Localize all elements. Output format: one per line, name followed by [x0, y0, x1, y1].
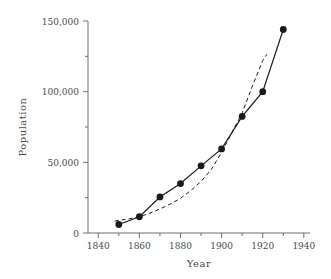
- data-point-marker: [198, 162, 205, 169]
- x-tick-label: 1840: [87, 241, 110, 251]
- x-tick-label: 1900: [210, 241, 233, 251]
- data-point-marker: [115, 221, 122, 228]
- data-point-marker: [280, 26, 287, 33]
- y-tick-label: 50,000: [48, 158, 80, 168]
- y-tick-label: 0: [73, 229, 79, 239]
- y-tick-label: 100,000: [42, 87, 79, 97]
- data-line-solid: [119, 29, 283, 224]
- data-point-marker: [259, 88, 266, 95]
- data-point-marker: [239, 113, 246, 120]
- y-tick-label: 150,000: [42, 17, 79, 27]
- x-axis-title: Year: [186, 258, 211, 269]
- trend-line-dashed: [115, 54, 267, 221]
- x-tick-label: 1920: [251, 241, 274, 251]
- x-tick-label: 1860: [128, 241, 151, 251]
- data-point-marker: [177, 180, 184, 187]
- x-tick-label: 1880: [169, 241, 192, 251]
- population-line-chart: 050,000100,000150,0001840186018801900192…: [0, 0, 331, 279]
- chart-canvas: 050,000100,000150,0001840186018801900192…: [0, 0, 331, 279]
- y-axis-title: Population: [17, 97, 28, 156]
- x-tick-label: 1940: [292, 241, 315, 251]
- data-point-marker: [157, 194, 164, 201]
